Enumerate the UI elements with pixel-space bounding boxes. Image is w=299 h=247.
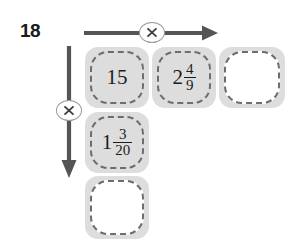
horizontal-operator-badge: [139, 22, 165, 43]
answer-box-r1c3[interactable]: [219, 47, 285, 108]
answer-box-border: [224, 51, 280, 104]
fraction-denominator: 20: [113, 142, 132, 158]
answer-box-border: 2 4 9: [157, 51, 211, 104]
answer-box-r1c2[interactable]: 2 4 9: [152, 47, 216, 108]
answer-box-value: 15: [107, 67, 128, 88]
answer-box-r1c1[interactable]: 15: [85, 47, 149, 108]
whole-number: 15: [107, 67, 128, 88]
answer-box-border: [90, 180, 144, 235]
fraction: 3 20: [113, 127, 132, 159]
answer-box-value: 2 4 9: [173, 62, 196, 94]
answer-box-border: 1 3 20: [90, 116, 144, 169]
problem-number: 18: [20, 21, 40, 40]
fraction: 4 9: [184, 62, 196, 94]
vertical-operator-badge: [56, 100, 82, 121]
multiply-icon: [57, 101, 81, 120]
fraction-denominator: 9: [184, 77, 196, 93]
worksheet-problem-panel: 18 15: [0, 0, 299, 247]
answer-box-r3c1[interactable]: [85, 176, 149, 239]
answer-box-value: 1 3 20: [102, 127, 133, 159]
fraction-numerator: 3: [117, 127, 129, 142]
answer-box-r2c1[interactable]: 1 3 20: [85, 112, 149, 173]
whole-number: 1: [102, 132, 113, 153]
answer-box-border: 15: [90, 51, 144, 104]
multiply-icon: [140, 23, 164, 42]
fraction-numerator: 4: [184, 62, 196, 77]
whole-number: 2: [173, 67, 184, 88]
